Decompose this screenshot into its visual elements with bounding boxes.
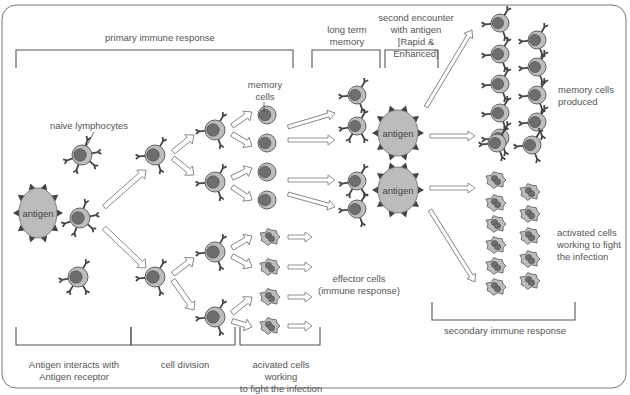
receptor-stem <box>199 131 205 132</box>
label-antigen-interacts: Antigen interacts with Antigen receptor <box>18 359 130 383</box>
cell-nucleus-lobe <box>268 296 274 302</box>
cell-nucleus <box>529 34 540 45</box>
label-long-term-memory: long term memory <box>312 24 382 48</box>
cell-nucleus <box>259 137 271 149</box>
receptor-branch <box>92 228 93 232</box>
cell-nucleus <box>259 166 271 178</box>
receptor-stem <box>485 85 491 86</box>
cell-nucleus-lobe <box>528 213 534 219</box>
receptor-branch <box>501 157 502 161</box>
label-primary-immune-response: primary immune response <box>90 32 230 44</box>
cell-nucleus <box>74 149 86 161</box>
receptor-branch <box>61 222 65 223</box>
cell-nucleus <box>529 61 540 72</box>
cell-nucleus <box>349 89 360 100</box>
receptor-stem <box>342 96 348 97</box>
cell-nucleus <box>529 116 540 127</box>
receptor-stem <box>199 253 205 254</box>
label-effector-cells: effector cells (immune response) <box>314 273 404 297</box>
receptor-branch <box>159 170 160 174</box>
receptor-stem <box>342 210 348 211</box>
cell-nucleus <box>147 149 159 161</box>
receptor-stem <box>62 279 68 280</box>
receptor-branch <box>536 159 537 163</box>
cell-nucleus-lobe <box>528 280 534 286</box>
cell-nucleus-lobe <box>494 179 500 185</box>
cell-nucleus <box>259 194 271 206</box>
receptor-stem <box>517 146 523 147</box>
memory-cell-icon <box>258 106 276 124</box>
label-second-encounter: second encounter with antigen [Rapid & E… <box>376 12 456 60</box>
cell-nucleus <box>259 109 271 121</box>
label-naive-lymphocytes: naive lymphocytes <box>44 120 134 132</box>
cell-nucleus <box>207 246 219 258</box>
label-acivated-cells-bottom: acivated cells working to fight the infe… <box>236 359 326 395</box>
cell-nucleus <box>489 137 500 148</box>
cell-nucleus-lobe <box>494 223 500 229</box>
label-secondary-immune-response: secondary immune response <box>440 325 570 337</box>
cell-nucleus <box>147 271 159 283</box>
receptor-stem <box>90 215 96 216</box>
receptor-branch <box>504 37 505 41</box>
receptor-stem <box>199 183 205 184</box>
receptor-branch <box>541 81 542 85</box>
cell-nucleus-lobe <box>528 235 534 241</box>
cell-nucleus <box>492 48 503 59</box>
receptor-branch <box>541 136 542 140</box>
cell-nucleus-lobe <box>494 286 500 292</box>
receptor-branch <box>504 98 505 102</box>
cell-nucleus-lobe <box>494 244 500 250</box>
cell-nucleus <box>492 17 503 28</box>
label-activated-cells-right: activated cells working to fight the inf… <box>557 227 629 263</box>
receptor-branch <box>361 223 362 227</box>
cell-nucleus <box>207 124 219 136</box>
label-memory-cells: memory cells <box>243 79 287 103</box>
cell-nucleus <box>349 120 360 131</box>
label-memory-cells-produced: memory cells produced <box>558 84 628 108</box>
receptor-branch <box>504 68 505 72</box>
cell-nucleus-lobe <box>494 265 500 271</box>
label-cell-division: cell division <box>135 359 235 371</box>
receptor-stem <box>482 144 488 145</box>
receptor-stem <box>522 41 528 42</box>
receptor-stem <box>522 68 528 69</box>
receptor-stem <box>485 24 491 25</box>
receptor-stem <box>342 128 348 129</box>
receptor-branch <box>361 109 362 113</box>
cell-nucleus-lobe <box>528 191 534 197</box>
receptor-stem <box>92 152 98 153</box>
receptor-stem <box>342 183 348 184</box>
memory-cell-icon <box>258 191 276 209</box>
memory-cell-icon <box>258 134 276 152</box>
receptor-branch <box>219 332 220 336</box>
receptor-branch <box>63 159 67 160</box>
receptor-stem <box>485 55 491 56</box>
receptor-branch <box>219 197 220 201</box>
cell-nucleus <box>207 311 219 323</box>
receptor-stem <box>522 96 528 97</box>
receptor-stem <box>139 156 145 157</box>
antigen-label: antigen <box>22 208 53 219</box>
receptor-branch <box>504 152 505 156</box>
receptor-stem <box>485 114 491 115</box>
cell-nucleus <box>524 139 535 150</box>
cell-nucleus <box>529 89 540 100</box>
cell-nucleus <box>207 176 219 188</box>
cell-nucleus <box>492 78 503 89</box>
cell-nucleus <box>492 107 503 118</box>
receptor-stem <box>199 318 205 319</box>
antigen-label: antigen <box>382 185 413 196</box>
cell-nucleus <box>349 175 360 186</box>
cell-nucleus-lobe <box>268 266 274 272</box>
receptor-branch <box>219 145 220 149</box>
receptor-stem <box>139 278 145 279</box>
cell-nucleus-lobe <box>528 258 534 264</box>
receptor-branch <box>219 267 220 271</box>
memory-cell-icon <box>258 163 276 181</box>
receptor-branch <box>94 165 95 169</box>
cell-nucleus-lobe <box>494 202 500 208</box>
cell-nucleus-lobe <box>268 325 274 331</box>
cell-nucleus <box>70 271 82 283</box>
cell-nucleus <box>72 212 84 224</box>
